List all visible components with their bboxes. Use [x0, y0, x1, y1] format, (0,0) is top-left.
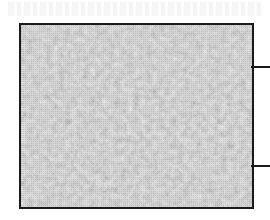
mosaic-texture	[21, 25, 252, 207]
faint-header-text	[8, 2, 262, 16]
lower-leader-line	[251, 165, 270, 167]
upper-leader-line	[251, 66, 270, 68]
texture-panel	[19, 23, 254, 209]
